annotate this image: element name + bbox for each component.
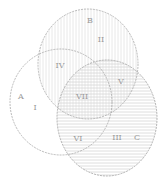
region-label-iv: IV (56, 62, 65, 70)
set-c-fill (57, 60, 157, 176)
set-label-a: A (18, 93, 24, 101)
region-label-i: I (33, 104, 36, 112)
set-label-c: C (134, 134, 140, 142)
region-label-vi: VI (74, 135, 83, 143)
region-label-vii: VII (76, 93, 88, 101)
region-label-ii: II (98, 36, 104, 44)
set-label-b: B (87, 17, 93, 25)
region-label-iii: III (112, 134, 121, 142)
region-label-v: V (118, 78, 124, 86)
